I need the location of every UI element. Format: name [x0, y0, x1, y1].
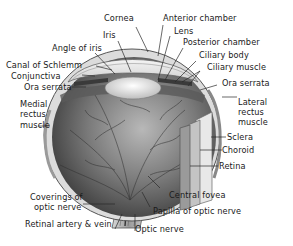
label-cornea: Cornea: [104, 14, 134, 23]
label-lateral-rectus-3: muscle: [238, 118, 268, 127]
label-coverings-2: optic nerve: [34, 203, 81, 212]
label-papilla-optic-nerve: Papilla of optic nerve: [153, 207, 241, 216]
label-conjunctiva: Conjunctiva: [11, 72, 61, 81]
label-medial-rectus-2: rectus: [20, 110, 46, 119]
label-lens: Lens: [174, 27, 193, 36]
label-angle-of-iris: Angle of iris: [52, 44, 102, 53]
label-lateral-rectus-2: rectus: [238, 108, 264, 117]
label-medial-rectus-3: muscle: [20, 121, 50, 130]
label-anterior-chamber: Anterior chamber: [163, 14, 237, 23]
label-sclera: Sclera: [227, 133, 253, 142]
eye-anatomy-diagram: Cornea Anterior chamber Iris Lens Angle …: [0, 0, 293, 246]
label-iris: Iris: [103, 31, 116, 40]
lens-shape: [105, 77, 161, 99]
label-lateral-rectus-1: Lateral: [238, 98, 267, 107]
label-canal-of-schlemm: Canal of Schlemm: [6, 61, 82, 70]
label-ora-serrata-right: Ora serrata: [222, 79, 270, 88]
label-ciliary-body: Ciliary body: [199, 51, 249, 60]
label-choroid: Choroid: [222, 146, 254, 155]
label-coverings-1: Coverings of: [30, 193, 83, 202]
label-retinal-artery-vein: Retinal artery & vein: [25, 220, 112, 229]
label-posterior-chamber: Posterior chamber: [183, 38, 260, 47]
label-central-fovea: Central fovea: [169, 191, 226, 200]
label-ciliary-muscle: Ciliary muscle: [207, 63, 266, 72]
label-retina: Retina: [219, 162, 246, 171]
label-medial-rectus-1: Medial: [20, 100, 47, 109]
label-optic-nerve: Optic nerve: [135, 225, 184, 234]
label-ora-serrata-left: Ora serrata: [24, 83, 72, 92]
